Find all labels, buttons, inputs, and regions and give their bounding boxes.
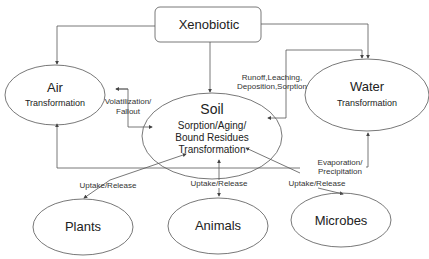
edge-evaporation-line2: Precipitation <box>318 167 362 176</box>
edge-runoff-line2: Deposition,Sorption <box>237 82 307 91</box>
node-air-subtitle: Transformation <box>25 98 85 108</box>
edge-volatilization-line1: Volatilization/ <box>105 97 152 106</box>
edge-uptake-microbes: Uptake/Release <box>289 179 346 188</box>
node-water-subtitle: Transformation <box>337 98 397 108</box>
node-soil-title: Soil <box>200 101 223 117</box>
node-air-title: Air <box>47 81 63 96</box>
edge-runoff-line1: Runoff,Leaching, <box>242 73 302 82</box>
node-soil-line3: Transformation <box>179 144 246 156</box>
node-soil-line1: Sorption/Aging/ <box>178 120 246 132</box>
node-soil-line2: Bound Residues <box>175 132 248 144</box>
node-plants: Plants <box>65 220 101 235</box>
node-water-title: Water <box>350 80 384 95</box>
node-xenobiotic: Xenobiotic <box>179 18 240 33</box>
node-microbes: Microbes <box>315 214 368 229</box>
edge-evaporation-line1: Evaporation/ <box>318 158 363 167</box>
edge-uptake-animals: Uptake/Release <box>191 179 248 188</box>
edge-volatilization-line2: Fallout <box>116 107 140 116</box>
node-animals: Animals <box>195 219 241 234</box>
edge-uptake-plants: Uptake/Release <box>80 181 137 190</box>
